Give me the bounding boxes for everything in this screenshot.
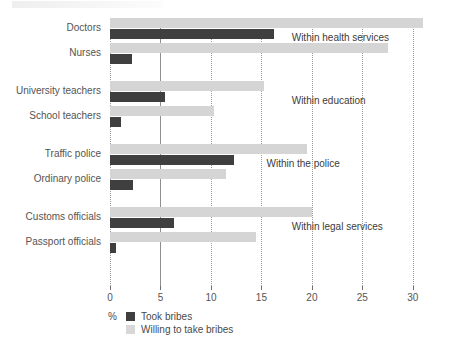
category-label: School teachers <box>29 110 101 121</box>
bar-group-row: University teachers <box>110 81 428 104</box>
legend-label-took-bribes: Took bribes <box>141 311 192 322</box>
group-annotation: Within the police <box>266 158 339 169</box>
bar-willing-to-take-bribes <box>110 144 307 154</box>
bar-willing-to-take-bribes <box>110 18 423 28</box>
bar-took-bribes <box>110 92 165 102</box>
bar-willing-to-take-bribes <box>110 207 312 217</box>
category-label: Traffic police <box>45 148 101 159</box>
bar-willing-to-take-bribes <box>110 81 264 91</box>
chart-legend: % Took bribes Willing to take bribes <box>108 310 233 336</box>
x-tick-label: 5 <box>158 292 164 303</box>
category-label: University teachers <box>16 85 101 96</box>
x-tick-label: 0 <box>107 292 113 303</box>
x-tick <box>261 286 262 290</box>
legend-item-took-bribes: Took bribes <box>126 310 233 323</box>
group-annotation: Within health services <box>292 32 389 43</box>
bar-group-row: School teachers <box>110 106 428 129</box>
x-tick <box>312 286 313 290</box>
x-tick <box>160 286 161 290</box>
x-tick-label: 25 <box>357 292 368 303</box>
x-tick <box>110 286 111 290</box>
x-tick-label: 15 <box>256 292 267 303</box>
legend-label-willing-to-take-bribes: Willing to take bribes <box>141 324 233 335</box>
x-tick <box>211 286 212 290</box>
x-tick-label: 10 <box>205 292 216 303</box>
bar-took-bribes <box>110 29 274 39</box>
percent-axis-label: % <box>108 311 117 322</box>
legend-item-willing-to-take-bribes: Willing to take bribes <box>126 323 233 336</box>
bar-willing-to-take-bribes <box>110 43 388 53</box>
bar-took-bribes <box>110 54 132 64</box>
category-label: Ordinary police <box>34 173 101 184</box>
x-tick <box>362 286 363 290</box>
bar-group-row: Ordinary police <box>110 169 428 192</box>
category-label: Customs officials <box>26 211 101 222</box>
bar-took-bribes <box>110 243 116 253</box>
cropped-title-remnant <box>12 1 162 8</box>
bar-took-bribes <box>110 117 121 127</box>
group-annotation: Within legal services <box>292 221 383 232</box>
bar-willing-to-take-bribes <box>110 169 226 179</box>
bar-took-bribes <box>110 155 234 165</box>
category-label: Passport officials <box>26 236 101 247</box>
category-label: Doctors <box>67 22 101 33</box>
x-tick <box>413 286 414 290</box>
legend-swatch-willing-to-take-bribes <box>126 325 135 334</box>
plot-area: DoctorsNursesUniversity teachersSchool t… <box>110 18 428 286</box>
bar-took-bribes <box>110 218 174 228</box>
bar-group-row: Passport officials <box>110 232 428 255</box>
bar-chart: DoctorsNursesUniversity teachersSchool t… <box>0 0 453 350</box>
bar-willing-to-take-bribes <box>110 232 256 242</box>
x-tick-label: 20 <box>306 292 317 303</box>
bar-took-bribes <box>110 180 133 190</box>
legend-swatch-took-bribes <box>126 312 135 321</box>
x-tick-label: 30 <box>407 292 418 303</box>
category-label: Nurses <box>69 47 101 58</box>
group-annotation: Within education <box>292 95 366 106</box>
bar-group-row: Nurses <box>110 43 428 66</box>
bar-willing-to-take-bribes <box>110 106 214 116</box>
x-axis: 051015202530 <box>110 286 428 306</box>
